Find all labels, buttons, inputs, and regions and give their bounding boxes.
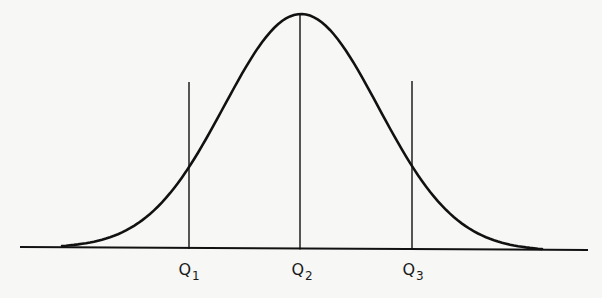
quartile-label-q3: Q3 <box>402 262 423 278</box>
quartile-label-q2: Q2 <box>291 262 312 278</box>
q1-letter: Q <box>178 260 191 279</box>
distribution-curve <box>62 14 542 249</box>
q2-subscript: 2 <box>305 269 313 283</box>
q3-letter: Q <box>402 260 415 279</box>
quartile-lines <box>189 15 412 250</box>
x-axis-baseline <box>20 247 588 250</box>
q1-subscript: 1 <box>192 269 200 283</box>
quartile-label-q1: Q1 <box>178 262 199 278</box>
bell-curve-diagram <box>0 0 602 298</box>
q2-letter: Q <box>291 260 304 279</box>
q3-subscript: 3 <box>416 269 424 283</box>
